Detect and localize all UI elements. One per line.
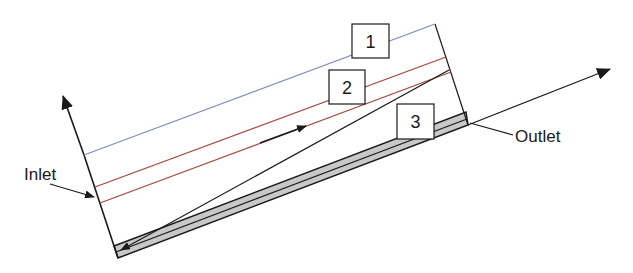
inlet-label: Inlet: [24, 165, 56, 184]
x-axis-arrow: [468, 69, 610, 125]
layer-marker-2: 2: [329, 70, 365, 104]
flow-direction-arrow: [260, 126, 306, 143]
inclined-channel-diagram: Inlet Outlet 1 2 3: [0, 0, 633, 273]
diagonal-return-line: [121, 70, 449, 250]
channel-left-wall: [84, 155, 118, 258]
y-axis-arrow: [63, 96, 84, 155]
outlet-label: Outlet: [515, 127, 561, 146]
outlet-pointer-line: [470, 123, 513, 135]
layer-marker-3: 3: [397, 104, 434, 139]
layer-marker-2-text: 2: [342, 78, 352, 98]
layer-marker-1-text: 1: [365, 32, 375, 52]
layer-marker-1: 1: [352, 24, 389, 58]
inlet-pointer-arrow: [50, 184, 94, 197]
layer-marker-3-text: 3: [410, 112, 420, 132]
